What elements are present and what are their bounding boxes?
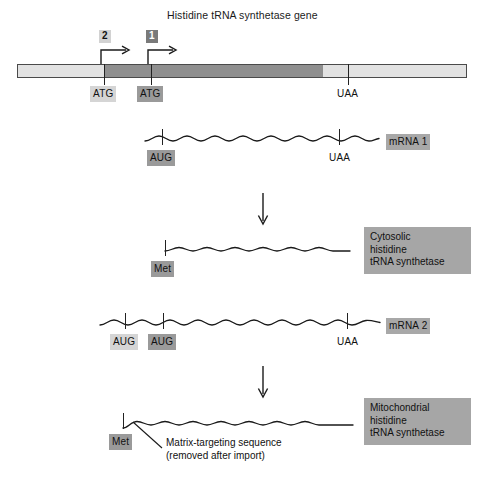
- start-site-2-tag: 2: [99, 30, 111, 43]
- gene-segment-3utr: [323, 65, 466, 77]
- gene-tick-uaa: [348, 64, 349, 85]
- gene-atg-1-label: ATG: [137, 86, 163, 102]
- mrna2-uaa-label: UAA: [334, 334, 361, 350]
- protein1-identity-box: Cytosolic histidine tRNA synthetase: [364, 227, 471, 274]
- gene-uaa-label: UAA: [334, 86, 361, 102]
- mrna1-strand: [145, 130, 380, 148]
- protein1-met-label: Met: [151, 261, 174, 277]
- mrna1-tick-aug: [162, 129, 163, 145]
- histidine-trna-synthetase-diagram: Histidine tRNA synthetase gene 2 1 ATG A…: [0, 0, 483, 487]
- protein1-box-line-1: Cytosolic: [370, 231, 465, 244]
- matrix-targeting-annotation-line-1: Matrix-targeting sequence: [166, 437, 282, 450]
- protein2-met-label: Met: [109, 434, 132, 450]
- mrna1-uaa-label: UAA: [326, 150, 353, 166]
- mrna1-name-label: mRNA 1: [386, 134, 430, 150]
- gene-segment-5utr: [18, 65, 105, 77]
- protein1-box-line-2: histidine: [370, 244, 465, 257]
- mrna1-aug-label: AUG: [147, 150, 175, 166]
- mrna2-strand: [100, 314, 380, 332]
- protein1-tick-met: [165, 240, 166, 256]
- gene-segment-coding: [105, 65, 323, 77]
- figure-title: Histidine tRNA synthetase gene: [167, 9, 318, 21]
- protein2-box-line-3: tRNA synthetase: [370, 427, 465, 440]
- mrna1-tick-uaa: [339, 129, 340, 145]
- gene-atg-2-label: ATG: [90, 86, 116, 102]
- mrna2-tick-aug-downstream: [163, 313, 164, 329]
- start-site-1-tag: 1: [146, 30, 158, 43]
- mrna2-name-label: mRNA 2: [386, 318, 430, 334]
- protein2-box-line-2: histidine: [370, 415, 465, 428]
- gene-bar: [17, 64, 467, 78]
- matrix-targeting-annotation: Matrix-targeting sequence (removed after…: [166, 437, 282, 462]
- translation-arrow-1-icon: [256, 193, 272, 226]
- mrna2-tick-uaa: [347, 313, 348, 329]
- mrna2-aug-downstream-label: AUG: [148, 334, 176, 350]
- protein2-tick-met: [123, 413, 124, 429]
- protein1-box-line-3: tRNA synthetase: [370, 256, 465, 269]
- translation-arrow-2-icon: [256, 366, 272, 399]
- protein2-box-line-1: Mitochondrial: [370, 402, 465, 415]
- mrna2-tick-aug-upstream: [125, 313, 126, 329]
- gene-tick-atg-2: [104, 64, 105, 85]
- gene-tick-atg-1: [151, 64, 152, 85]
- matrix-targeting-annotation-line-2: (removed after import): [166, 450, 282, 463]
- mrna2-aug-upstream-label: AUG: [110, 334, 138, 350]
- protein2-identity-box: Mitochondrial histidine tRNA synthetase: [364, 398, 471, 445]
- protein1-chain: [165, 243, 350, 259]
